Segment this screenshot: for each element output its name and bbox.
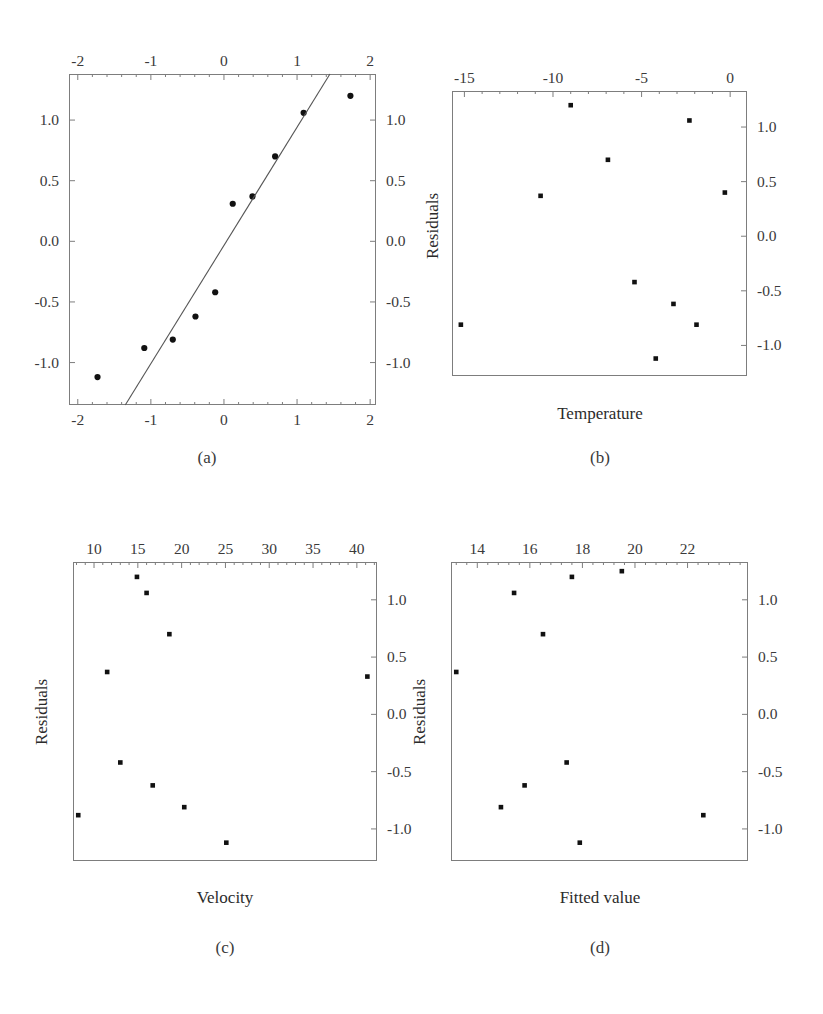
- data-point: [522, 783, 527, 788]
- y-tick-label-left-a-3: -0.5: [34, 294, 59, 310]
- data-point: [512, 591, 517, 596]
- y-tick-label-right-c-2: 0.0: [387, 707, 406, 723]
- x-tick-label-top-d-0: 14: [470, 541, 486, 557]
- data-point: [568, 103, 573, 108]
- data-point: [105, 670, 110, 675]
- data-point: [577, 840, 582, 845]
- x-axis-title-c: Velocity: [197, 888, 254, 908]
- data-point: [76, 813, 81, 818]
- x-tick-label-top-b-2: -5: [635, 70, 648, 86]
- data-point: [538, 194, 543, 199]
- data-point: [167, 632, 172, 637]
- data-point: [94, 374, 100, 380]
- y-tick-label-right-c-4: -1.0: [387, 821, 412, 837]
- data-point: [182, 805, 187, 810]
- y-axis-title-d: Residuals: [410, 679, 430, 745]
- panel-caption-a: (a): [198, 448, 217, 468]
- x-tick-label-top-a-4: 2: [366, 53, 374, 69]
- data-point: [459, 322, 464, 327]
- x-axis-title-d: Fitted value: [560, 888, 641, 908]
- plot-canvas-b: [452, 91, 749, 378]
- data-point: [723, 190, 728, 195]
- x-tick-label-top-b-3: 0: [726, 70, 734, 86]
- plot-canvas-a: [69, 74, 378, 407]
- plot-canvas-d: [451, 562, 750, 863]
- data-point: [606, 157, 611, 162]
- y-tick-label-right-a-4: -1.0: [386, 355, 411, 371]
- y-tick-label-right-b-0: 1.0: [757, 119, 776, 135]
- data-point: [347, 93, 353, 99]
- y-tick-label-right-b-4: -1.0: [757, 338, 782, 354]
- y-tick-label-left-a-1: 0.5: [40, 173, 59, 189]
- y-axis-title-c: Residuals: [32, 679, 52, 745]
- x-tick-label-top-c-2: 20: [174, 541, 190, 557]
- data-point: [620, 569, 625, 574]
- x-tick-label-top-c-1: 15: [130, 541, 146, 557]
- y-tick-label-right-a-0: 1.0: [386, 112, 405, 128]
- data-point: [541, 632, 546, 637]
- x-tick-label-bottom-a-0: -2: [71, 412, 84, 428]
- x-tick-label-top-d-1: 16: [522, 541, 538, 557]
- y-tick-label-left-a-0: 1.0: [40, 112, 59, 128]
- data-point: [499, 805, 504, 810]
- data-point: [701, 813, 706, 818]
- y-tick-label-right-d-3: -0.5: [758, 764, 783, 780]
- x-tick-label-top-a-0: -2: [71, 53, 84, 69]
- x-tick-label-top-d-4: 22: [680, 541, 696, 557]
- x-tick-label-top-c-6: 40: [349, 541, 365, 557]
- data-point: [564, 760, 569, 765]
- data-point: [454, 670, 459, 675]
- x-tick-label-bottom-a-4: 2: [366, 412, 374, 428]
- y-tick-label-right-d-4: -1.0: [758, 821, 783, 837]
- data-point: [135, 575, 140, 580]
- y-tick-label-right-d-0: 1.0: [758, 592, 777, 608]
- x-axis-title-b: Temperature: [557, 404, 643, 424]
- plot-canvas-c: [73, 562, 379, 863]
- y-tick-label-right-c-3: -0.5: [387, 764, 412, 780]
- x-tick-label-top-c-3: 25: [218, 541, 234, 557]
- data-point: [632, 280, 637, 285]
- x-tick-label-bottom-a-1: -1: [144, 412, 157, 428]
- y-tick-label-right-a-3: -0.5: [386, 294, 411, 310]
- y-tick-label-right-d-1: 0.5: [758, 649, 777, 665]
- data-point: [141, 345, 147, 351]
- reference-line-a: [125, 74, 330, 405]
- x-tick-label-top-c-4: 30: [261, 541, 277, 557]
- x-tick-label-top-a-2: 0: [220, 53, 228, 69]
- panel-caption-d: (d): [590, 938, 610, 958]
- x-tick-label-top-b-0: -15: [454, 70, 475, 86]
- data-point: [653, 356, 658, 361]
- x-tick-label-top-c-0: 10: [86, 541, 102, 557]
- data-point: [192, 313, 198, 319]
- x-tick-label-top-a-1: -1: [144, 53, 157, 69]
- data-point: [230, 201, 236, 207]
- data-point: [365, 674, 370, 679]
- x-tick-label-top-d-3: 20: [627, 541, 643, 557]
- x-tick-label-bottom-a-3: 1: [293, 412, 301, 428]
- data-point: [570, 575, 575, 580]
- panel-caption-c: (c): [216, 938, 235, 958]
- y-tick-label-right-a-2: 0.0: [386, 234, 405, 250]
- y-tick-label-left-a-2: 0.0: [40, 234, 59, 250]
- data-point: [687, 118, 692, 123]
- y-tick-label-right-d-2: 0.0: [758, 707, 777, 723]
- data-point: [150, 783, 155, 788]
- data-point: [170, 336, 176, 342]
- figure-residual-diagnostics: -2-1012-2-10121.00.50.0-0.5-1.01.00.50.0…: [0, 0, 823, 1014]
- data-point: [224, 840, 229, 845]
- x-tick-label-bottom-a-2: 0: [220, 412, 228, 428]
- x-tick-label-top-b-1: -10: [543, 70, 564, 86]
- y-tick-label-right-b-3: -0.5: [757, 283, 782, 299]
- y-tick-label-right-a-1: 0.5: [386, 173, 405, 189]
- data-point: [694, 322, 699, 327]
- data-point: [671, 302, 676, 307]
- data-point: [118, 760, 123, 765]
- y-axis-title-b: Residuals: [423, 193, 443, 259]
- x-tick-label-top-a-3: 1: [293, 53, 301, 69]
- y-tick-label-right-c-0: 1.0: [387, 592, 406, 608]
- y-tick-label-right-b-1: 0.5: [757, 174, 776, 190]
- data-point: [144, 591, 149, 596]
- x-tick-label-top-d-2: 18: [575, 541, 591, 557]
- y-tick-label-right-c-1: 0.5: [387, 649, 406, 665]
- x-tick-label-top-c-5: 35: [305, 541, 321, 557]
